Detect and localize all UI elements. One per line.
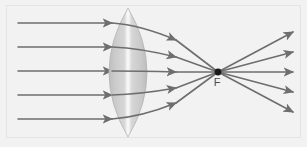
refracted-ray-3 — [112, 71, 176, 72]
optics-diagram-canvas: F — [0, 0, 307, 147]
ray-diagram-svg: F — [0, 0, 307, 147]
diagram-background — [0, 0, 307, 147]
focal-point-label: F — [214, 76, 221, 88]
focal-point-dot — [215, 69, 222, 76]
